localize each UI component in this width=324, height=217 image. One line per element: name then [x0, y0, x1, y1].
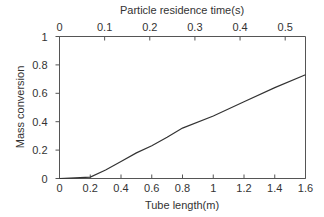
y-tick-label: 0.8: [32, 59, 47, 71]
x-tick-label: 1.4: [267, 182, 282, 194]
x-tick-label: 0.6: [144, 182, 159, 194]
y-tick-label: 1: [41, 31, 47, 43]
top-tick-label: 0.4: [232, 21, 247, 33]
x-tick-label: 1: [210, 182, 216, 194]
y-tick-label: 0.6: [32, 87, 47, 99]
top-axis-label: Particle residence time(s): [120, 4, 244, 16]
data-line: [60, 75, 306, 179]
top-tick-label: 0.1: [97, 21, 112, 33]
y-tick-label: 0.4: [32, 116, 47, 128]
x-axis-ticks: 00.20.40.60.811.21.41.6: [56, 175, 313, 194]
y-tick-label: 0: [41, 173, 47, 185]
x-tick-label: 0.2: [83, 182, 98, 194]
top-axis-ticks: 00.10.20.30.40.5: [56, 21, 292, 41]
top-tick-label: 0.2: [142, 21, 157, 33]
x-tick-label: 1.6: [298, 182, 313, 194]
y-tick-label: 0.2: [32, 144, 47, 156]
x-tick-label: 0.4: [113, 182, 128, 194]
y-axis-ticks: 00.20.40.60.81: [32, 31, 59, 185]
x-tick-label: 0: [56, 182, 62, 194]
x-axis-label: Tube length(m): [145, 199, 219, 211]
plot-frame: [60, 37, 306, 179]
top-tick-label: 0.3: [187, 21, 202, 33]
chart: 00.20.40.60.811.21.41.6 00.20.40.60.81 0…: [0, 0, 324, 217]
top-tick-label: 0: [56, 21, 62, 33]
x-tick-label: 0.8: [175, 182, 190, 194]
x-tick-label: 1.2: [236, 182, 251, 194]
top-tick-label: 0.5: [278, 21, 293, 33]
y-axis-label: Mass conversion: [14, 66, 26, 149]
